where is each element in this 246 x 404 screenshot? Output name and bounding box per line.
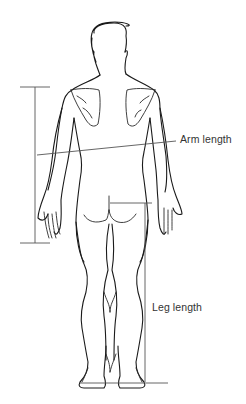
head-outline: [91, 22, 129, 75]
body-measurement-diagram: Arm length Leg length: [0, 0, 246, 404]
leg-length-label: Leg length: [152, 301, 202, 313]
shoulder-blades: [71, 89, 155, 127]
leg-length-measure: [80, 203, 168, 383]
buttocks: [84, 196, 136, 223]
left-arm: [38, 108, 74, 238]
right-arm: [150, 108, 182, 234]
arm-length-label: Arm length: [180, 133, 232, 145]
legs: [76, 220, 148, 388]
